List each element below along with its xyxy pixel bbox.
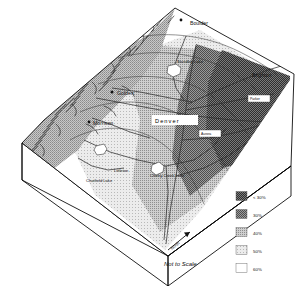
legend-label-2: 40% — [253, 231, 262, 236]
label-chatfield-lake: Chatfield Lake — [86, 178, 113, 183]
legend-swatch-3 — [236, 246, 247, 255]
figure-root: Boulder Brighton Golden Morrison Littlet… — [0, 0, 303, 286]
label-denver: Denver — [155, 118, 180, 124]
legend-label-4: 60% — [253, 267, 262, 272]
label-golden: Golden — [117, 90, 134, 96]
legend-swatch-2 — [236, 228, 247, 237]
legend-label-1: 30% — [253, 213, 262, 218]
block-diagram-map: Boulder Brighton Golden Morrison Littlet… — [0, 0, 303, 286]
legend-swatch-4 — [236, 264, 247, 273]
city-dot-golden — [111, 91, 114, 94]
label-parker: Parker — [250, 97, 261, 101]
label-aurora: Aurora — [201, 132, 211, 136]
label-brighton: Brighton — [252, 72, 271, 78]
legend: < 30% 30% 40% 50% 60% — [236, 192, 266, 273]
denver-label-box: Denver — [152, 115, 198, 125]
label-littleton: Littleton — [114, 168, 129, 173]
label-morrison: Morrison — [93, 120, 113, 126]
label-standley-lake: Standley Lake — [177, 59, 204, 64]
label-cherry-creek-lake: Cherry Creek Lake — [150, 173, 185, 178]
city-dot-boulder — [180, 19, 183, 22]
city-dot-morrison — [88, 121, 91, 124]
label-boulder: Boulder — [190, 20, 208, 26]
legend-swatch-1 — [236, 210, 247, 219]
legend-label-3: 50% — [253, 249, 262, 254]
label-not-to-scale: Not to Scale — [164, 261, 197, 267]
legend-label-0: < 30% — [253, 195, 266, 200]
legend-swatch-0 — [236, 192, 247, 201]
